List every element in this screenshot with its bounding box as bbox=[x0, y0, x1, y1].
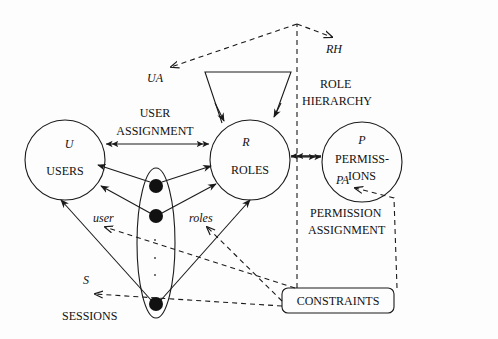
ua-abbr-label: UA bbox=[147, 71, 164, 85]
session-dot-3 bbox=[149, 297, 163, 311]
roles-label: ROLES bbox=[231, 163, 269, 177]
diagram-svg: UA USER ASSIGNMENT RH ROLE HIERARCHY PA … bbox=[0, 0, 498, 339]
rbac-diagram: UA USER ASSIGNMENT RH ROLE HIERARCHY PA … bbox=[0, 0, 498, 339]
roles-fn-label: roles bbox=[189, 211, 213, 225]
rh-abbr-label: RH bbox=[325, 42, 343, 56]
pa-label-line1: PERMISSION bbox=[310, 206, 382, 220]
permissions-label-line1: PERMISS- bbox=[335, 152, 389, 166]
ua-label-line2: ASSIGNMENT bbox=[116, 124, 194, 138]
rh-label-line2: HIERARCHY bbox=[302, 94, 372, 108]
rh-label-line1: ROLE bbox=[320, 77, 351, 91]
user-fn-label: user bbox=[93, 211, 114, 225]
permissions-label-line2: IONS bbox=[348, 169, 376, 183]
sessions-symbol: S bbox=[83, 273, 89, 287]
role-hierarchy-loop bbox=[205, 72, 291, 123]
session-dot-1 bbox=[149, 179, 163, 193]
sessions-label: SESSIONS bbox=[62, 309, 117, 323]
pa-label-line2: ASSIGNMENT bbox=[308, 223, 386, 237]
constraints-label: CONSTRAINTS bbox=[297, 294, 380, 308]
users-node bbox=[25, 120, 105, 200]
ua-label-line1: USER bbox=[140, 106, 171, 120]
permissions-symbol: P bbox=[357, 133, 366, 147]
session-dot-2 bbox=[149, 209, 163, 223]
roles-node bbox=[210, 120, 290, 200]
users-symbol: U bbox=[65, 137, 75, 151]
users-label: USERS bbox=[46, 164, 83, 178]
roles-symbol: R bbox=[241, 135, 250, 149]
